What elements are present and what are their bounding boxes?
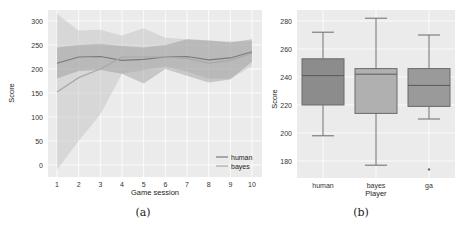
y-tick: 0	[39, 162, 43, 169]
y-tick: 280	[280, 18, 292, 25]
caption-b: (b)	[353, 206, 369, 219]
y-axis-label: Score	[7, 83, 16, 103]
y-tick-labels: 180200220240260280	[280, 18, 292, 165]
x-tick: 4	[120, 181, 124, 188]
line-chart-panel: 050100150200250300 12345678910 Game sess…	[7, 10, 262, 219]
x-tick: 10	[248, 181, 256, 188]
figure: 050100150200250300 12345678910 Game sess…	[0, 0, 472, 233]
x-tick: 1	[55, 181, 59, 188]
x-axis-label: Game session	[131, 188, 179, 197]
x-axis-label: Player	[365, 189, 387, 198]
x-tick: 8	[207, 181, 211, 188]
y-axis-label: Score	[270, 89, 279, 109]
y-tick: 150	[31, 90, 43, 97]
x-tick: 7	[185, 181, 189, 188]
y-tick: 220	[280, 102, 292, 109]
y-tick: 200	[280, 130, 292, 137]
y-tick: 180	[280, 158, 292, 165]
x-tick: 6	[163, 181, 167, 188]
legend-label-human: human	[231, 154, 253, 161]
y-tick-labels: 050100150200250300	[31, 18, 43, 169]
box-plot-panel: 180200220240260280 humanbayesga Player S…	[270, 10, 455, 219]
y-tick: 240	[280, 74, 292, 81]
outlier-point	[428, 168, 430, 170]
x-tick: 9	[228, 181, 232, 188]
x-tick-labels: 12345678910	[55, 181, 256, 188]
x-tick: 5	[142, 181, 146, 188]
y-tick: 300	[31, 18, 43, 25]
caption-a: (a)	[135, 206, 150, 219]
x-tick: human	[312, 182, 334, 189]
y-tick: 260	[280, 46, 292, 53]
y-tick: 250	[31, 42, 43, 49]
legend-label-bayes: bayes	[231, 163, 250, 171]
y-tick: 50	[35, 138, 43, 145]
x-tick: 3	[98, 181, 102, 188]
x-tick: ga	[425, 182, 433, 190]
x-tick: 2	[77, 181, 81, 188]
y-tick: 100	[31, 114, 43, 121]
y-tick: 200	[31, 66, 43, 73]
